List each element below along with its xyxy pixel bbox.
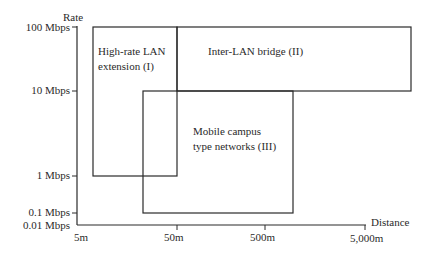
x-tick-label: 50m	[164, 231, 184, 244]
x-tick-label: 5,000m	[350, 232, 383, 245]
region-label: type networks (III)	[193, 140, 276, 153]
region-label: Inter-LAN bridge (II)	[208, 45, 303, 58]
x-tick-label: 5m	[74, 231, 88, 244]
y-tick-label: 100 Mbps	[0, 21, 70, 34]
region-label: High-rate LAN	[98, 45, 166, 58]
y-tick-label: 10 Mbps	[0, 84, 70, 97]
region-label: extension (I)	[98, 60, 154, 73]
y-tick-label: 0.01 Mbps	[0, 219, 70, 232]
y-tick-label: 1 Mbps	[0, 169, 70, 182]
x-axis-title: Distance	[371, 216, 409, 229]
x-tick-label: 500m	[250, 231, 275, 244]
region-inter-lan-bridge	[177, 27, 411, 91]
y-tick-label: 0.1 Mbps	[0, 206, 70, 219]
region-label: Mobile campus	[193, 125, 261, 138]
